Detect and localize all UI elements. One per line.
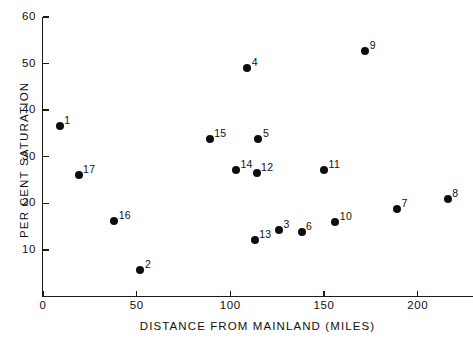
data-point-2 — [136, 266, 144, 274]
data-point-11 — [320, 166, 328, 174]
data-point-label-11: 11 — [329, 158, 341, 170]
x-axis-title: DISTANCE FROM MAINLAND (MILES) — [42, 320, 473, 332]
data-point-label-10: 10 — [340, 210, 352, 222]
data-points-layer: 1171621514413125361110978 — [0, 0, 473, 345]
data-point-label-7: 7 — [402, 197, 408, 209]
data-point-5 — [254, 135, 262, 143]
data-point-8 — [444, 195, 452, 203]
data-point-label-14: 14 — [240, 158, 252, 170]
data-point-17 — [75, 171, 83, 179]
data-point-label-13: 13 — [259, 228, 271, 240]
data-point-label-8: 8 — [452, 187, 458, 199]
data-point-3 — [275, 226, 283, 234]
scatter-plot-figure: 102030405060 050100150200 11716215144131… — [0, 0, 473, 345]
data-point-7 — [393, 205, 401, 213]
data-point-label-5: 5 — [263, 127, 269, 139]
data-point-label-4: 4 — [252, 56, 258, 68]
data-point-label-3: 3 — [284, 218, 290, 230]
data-point-14 — [232, 166, 240, 174]
data-point-10 — [331, 218, 339, 226]
data-point-12 — [253, 169, 261, 177]
y-axis-title: PER CENT SATURATION — [18, 82, 30, 238]
data-point-6 — [298, 228, 306, 236]
data-point-label-1: 1 — [64, 114, 70, 126]
data-point-label-6: 6 — [306, 220, 312, 232]
data-point-9 — [361, 47, 369, 55]
data-point-1 — [56, 122, 64, 130]
data-point-15 — [206, 135, 214, 143]
data-point-label-2: 2 — [145, 258, 151, 270]
data-point-4 — [243, 64, 251, 72]
data-point-label-17: 17 — [83, 163, 95, 175]
data-point-label-12: 12 — [261, 161, 273, 173]
data-point-label-16: 16 — [119, 209, 131, 221]
data-point-label-9: 9 — [370, 39, 376, 51]
data-point-16 — [110, 217, 118, 225]
data-point-13 — [251, 236, 259, 244]
data-point-label-15: 15 — [214, 127, 226, 139]
